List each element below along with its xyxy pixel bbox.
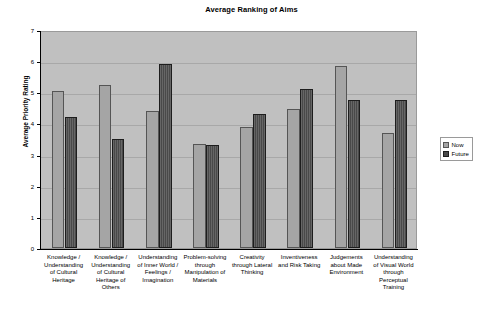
- x-axis-label-line: Knowledge /: [87, 254, 134, 262]
- y-tick-label: 0: [0, 246, 34, 252]
- x-axis-label-line: of Visual World: [370, 262, 417, 270]
- x-axis-category-label: Understandingof Visual WorldthroughPerce…: [370, 254, 417, 292]
- legend-label: Now: [452, 142, 464, 148]
- bar-now: [52, 91, 65, 248]
- y-tick-mark: [37, 62, 40, 63]
- x-axis-category-label: Creativitythrough LateralThinking: [229, 254, 276, 277]
- x-axis-label-line: about Made: [323, 262, 370, 270]
- x-axis-label-line: of Cultural: [87, 269, 134, 277]
- x-axis-label-line: Inventiveness: [276, 254, 323, 262]
- x-axis-category-label: Knowledge /Understandingof CulturalHerit…: [40, 254, 87, 284]
- gridline: [41, 94, 416, 95]
- chart-legend: NowFuture: [440, 137, 473, 161]
- x-axis-label-line: through Lateral: [229, 262, 276, 270]
- y-tick-label: 3: [0, 153, 34, 159]
- chart-container: Average Ranking of Aims Average Priority…: [0, 0, 503, 310]
- x-axis-label-line: Manipulation of: [181, 269, 228, 277]
- x-axis-label-line: Materials: [181, 277, 228, 285]
- bar-future: [65, 117, 78, 248]
- x-axis-label-line: Problem-solving: [181, 254, 228, 262]
- chart-title: Average Ranking of Aims: [0, 5, 503, 14]
- legend-item[interactable]: Now: [443, 140, 469, 149]
- bar-now: [146, 111, 159, 248]
- y-tick-mark: [37, 218, 40, 219]
- x-axis-label-line: Heritage of: [87, 277, 134, 285]
- x-axis-category-label: Knowledge /Understandingof CulturalHerit…: [87, 254, 134, 292]
- x-axis-label-line: Others: [87, 284, 134, 292]
- y-tick-mark: [37, 31, 40, 32]
- bar-future: [159, 64, 172, 248]
- y-tick-label: 1: [0, 215, 34, 221]
- y-axis-line: [40, 31, 41, 250]
- x-axis-category-label: Inventivenessand Risk Taking: [276, 254, 323, 269]
- x-axis-label-line: Imagination: [134, 277, 181, 285]
- bar-future: [395, 100, 408, 248]
- x-axis-label-line: Environment: [323, 269, 370, 277]
- y-tick-mark: [37, 249, 40, 250]
- x-axis-label-line: Judgements: [323, 254, 370, 262]
- bar-now: [240, 127, 253, 248]
- legend-label: Future: [452, 151, 469, 157]
- y-tick-mark: [37, 187, 40, 188]
- legend-swatch-now-icon: [443, 142, 449, 148]
- x-axis-label-line: Creativity: [229, 254, 276, 262]
- legend-item[interactable]: Future: [443, 149, 469, 158]
- y-tick-label: 5: [0, 90, 34, 96]
- bar-now: [287, 109, 300, 248]
- x-axis-label-line: Training: [370, 284, 417, 292]
- x-axis-label-line: Understanding: [40, 262, 87, 270]
- y-tick-label: 7: [0, 28, 34, 34]
- x-axis-label-line: Knowledge /: [40, 254, 87, 262]
- bar-future: [112, 139, 125, 248]
- x-axis-category-label: Judgementsabout MadeEnvironment: [323, 254, 370, 277]
- gridline: [41, 63, 416, 64]
- y-tick-mark: [37, 124, 40, 125]
- bar-now: [382, 133, 395, 248]
- x-axis-line: [40, 249, 418, 250]
- x-axis-label-line: Perceptual: [370, 277, 417, 285]
- x-axis-label-line: of Inner World /: [134, 262, 181, 270]
- bar-future: [348, 100, 361, 248]
- y-tick-label: 2: [0, 184, 34, 190]
- y-tick-label: 4: [0, 121, 34, 127]
- x-axis-label-line: Feelings /: [134, 269, 181, 277]
- y-tick-mark: [37, 156, 40, 157]
- plot-area: [40, 31, 417, 249]
- x-axis-category-label: Problem-solvingthroughManipulation ofMat…: [181, 254, 228, 284]
- x-axis-label-line: through: [181, 262, 228, 270]
- x-axis-category-label: Understandingof Inner World /Feelings /I…: [134, 254, 181, 284]
- bar-future: [206, 145, 219, 248]
- x-axis-label-line: Understanding: [87, 262, 134, 270]
- bar-now: [335, 66, 348, 248]
- y-tick-mark: [37, 93, 40, 94]
- x-axis-label-line: through: [370, 269, 417, 277]
- y-tick-label: 6: [0, 59, 34, 65]
- bar-now: [193, 144, 206, 248]
- legend-swatch-future-icon: [443, 151, 449, 157]
- x-axis-label-line: of Cultural: [40, 269, 87, 277]
- bar-future: [300, 89, 313, 248]
- bar-future: [253, 114, 266, 248]
- x-axis-label-line: Heritage: [40, 277, 87, 285]
- x-axis-label-line: Understanding: [370, 254, 417, 262]
- bar-now: [99, 85, 112, 249]
- x-axis-label-line: and Risk Taking: [276, 262, 323, 270]
- x-axis-label-line: Thinking: [229, 269, 276, 277]
- x-axis-label-line: Understanding: [134, 254, 181, 262]
